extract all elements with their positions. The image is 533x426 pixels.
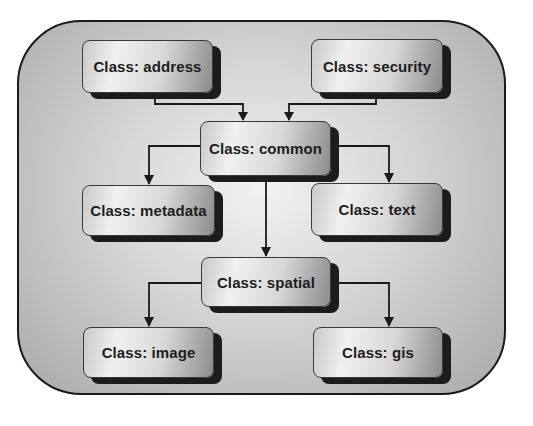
node-label: Class: text bbox=[339, 201, 416, 218]
node-label: Class: common bbox=[209, 140, 322, 157]
node-label: Class: gis bbox=[342, 344, 414, 361]
node-image[interactable]: Class: image bbox=[83, 327, 214, 378]
node-gis[interactable]: Class: gis bbox=[313, 327, 443, 378]
node-security[interactable]: Class: security bbox=[311, 39, 443, 93]
node-metadata[interactable]: Class: metadata bbox=[82, 185, 215, 236]
node-label: Class: image bbox=[102, 344, 196, 361]
node-text[interactable]: Class: text bbox=[311, 183, 443, 236]
node-common[interactable]: Class: common bbox=[200, 121, 331, 176]
node-label: Class: security bbox=[323, 58, 431, 75]
node-spatial[interactable]: Class: spatial bbox=[201, 257, 331, 307]
node-label: Class: metadata bbox=[90, 202, 207, 219]
node-address[interactable]: Class: address bbox=[82, 40, 213, 93]
node-label: Class: spatial bbox=[217, 274, 315, 291]
node-label: Class: address bbox=[93, 58, 201, 75]
